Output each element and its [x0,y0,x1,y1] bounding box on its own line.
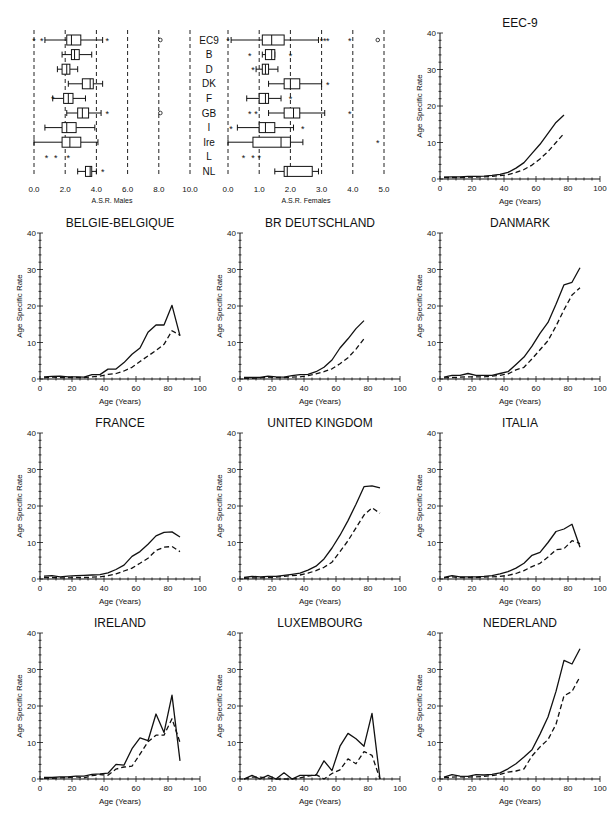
x-axis-label: Age (Years) [99,797,141,806]
x-tick-label: 0 [238,784,243,793]
box-row-ire [34,137,98,147]
x-tick-label: 1.0 [254,185,266,194]
x-tick-label: 40 [100,584,109,593]
line-chart-belgie-belgique: BELGIE-BELGIQUE020406080100010203040Age … [0,215,200,415]
series-solid [244,321,364,378]
outlier-star: * [348,36,352,46]
box-row-i [45,123,95,133]
x-tick-label: 2.0 [60,185,72,194]
y-axis-label: Age Specific Rate [415,474,424,538]
iqr-box [284,166,312,176]
box-row-l: L*** [206,151,261,163]
outlier-star: * [326,36,330,46]
y-tick-label: 0 [432,575,437,584]
x-axis-label: Age (Years) [99,597,141,606]
y-tick-label: 20 [427,302,436,311]
outlier-star: * [251,153,255,163]
y-tick-label: 0 [232,375,237,384]
box-row-d [57,64,77,74]
x-tick-label: 0 [238,384,243,393]
x-tick-label: 0 [238,584,243,593]
x-tick-label: 40 [500,184,509,193]
line-chart-united-kingdom: UNITED KINGDOM020406080100010203040Age (… [200,415,400,615]
y-tick-label: 40 [427,429,436,438]
y-tick-label: 10 [427,739,436,748]
y-tick-label: 0 [432,375,437,384]
y-tick-label: 40 [427,229,436,238]
y-tick-label: 30 [227,466,236,475]
chart-title: LUXEMBOURG [277,616,362,630]
x-tick-label: 100 [593,784,607,793]
outlier-star: * [289,51,293,61]
x-tick-label: 4.0 [91,185,103,194]
y-tick-label: 0 [32,775,37,784]
y-tick-label: 40 [27,429,36,438]
y-axis-label: Age Specific Rate [415,674,424,738]
category-label: F [206,93,212,104]
x-axis-label: Age (Years) [299,397,341,406]
series-solid [44,305,180,377]
y-tick-label: 20 [227,702,236,711]
x-tick-label: 40 [500,584,509,593]
iqr-box [259,93,268,103]
category-label: B [206,49,213,60]
x-tick-label: 20 [68,784,77,793]
line-chart-svg: FRANCE020406080100010203040Age (Years)Ag… [0,415,210,615]
series-dashed [444,541,580,578]
y-tick-label: 10 [27,739,36,748]
y-tick-label: 40 [227,629,236,638]
x-axis-label: A.S.R. Males [92,197,133,204]
y-tick-label: 40 [427,29,436,38]
y-tick-label: 40 [227,229,236,238]
outlier-star: * [32,36,36,46]
line-chart-svg: IRELAND020406080100010203040Age (Years)A… [0,615,210,815]
iqr-box [82,79,93,89]
y-axis-label: Age Specific Rate [215,474,224,538]
line-chart-br-deutschland: BR DEUTSCHLAND020406080100010203040Age (… [200,215,400,415]
chart-title: DANMARK [490,216,550,230]
x-tick-label: 40 [300,784,309,793]
x-tick-label: 0 [438,584,443,593]
iqr-box [259,123,275,133]
outlier-star: * [376,138,380,148]
x-tick-label: 0 [38,384,43,393]
x-tick-label: 20 [468,184,477,193]
x-tick-label: 20 [468,584,477,593]
y-tick-label: 40 [27,629,36,638]
category-label: DK [202,78,216,89]
outlier-star: * [248,51,252,61]
chart-title: UNITED KINGDOM [267,416,372,430]
y-tick-label: 30 [427,66,436,75]
y-tick-label: 40 [427,629,436,638]
outlier-star: * [229,124,233,134]
x-tick-label: 80 [164,784,173,793]
x-tick-label: 80 [564,784,573,793]
x-tick-label: 80 [564,584,573,593]
y-tick-label: 10 [427,339,436,348]
outlier-star: * [51,94,55,104]
iqr-box [78,108,89,118]
line-chart-svg: DANMARK020406080100010203040Age (Years)A… [400,215,610,415]
y-tick-label: 20 [427,502,436,511]
series-dashed [244,339,364,379]
y-tick-label: 0 [232,575,237,584]
chart-title: IRELAND [94,616,146,630]
iqr-box [71,50,79,60]
x-tick-label: 5.0 [378,185,390,194]
boxplot-females: 0.01.02.03.04.05.0A.S.R. FemalesEC9*****… [195,0,400,205]
outlier-star: * [40,36,44,46]
x-tick-label: 80 [364,384,373,393]
x-tick-label: 100 [593,384,607,393]
x-tick-label: 100 [593,584,607,593]
y-tick-label: 30 [227,266,236,275]
boxplot-males: 0.02.04.06.08.010.0A.S.R. Males********* [0,0,200,205]
line-chart-eec-9: EEC-9020406080100010203040Age (Years)Age… [400,15,600,215]
y-tick-label: 20 [27,702,36,711]
y-tick-label: 30 [427,666,436,675]
x-tick-label: 40 [500,384,509,393]
x-tick-label: 40 [500,784,509,793]
x-tick-label: 20 [468,784,477,793]
box-row-gb: * [67,108,162,119]
iqr-box [62,123,76,133]
x-tick-label: 0 [38,584,43,593]
